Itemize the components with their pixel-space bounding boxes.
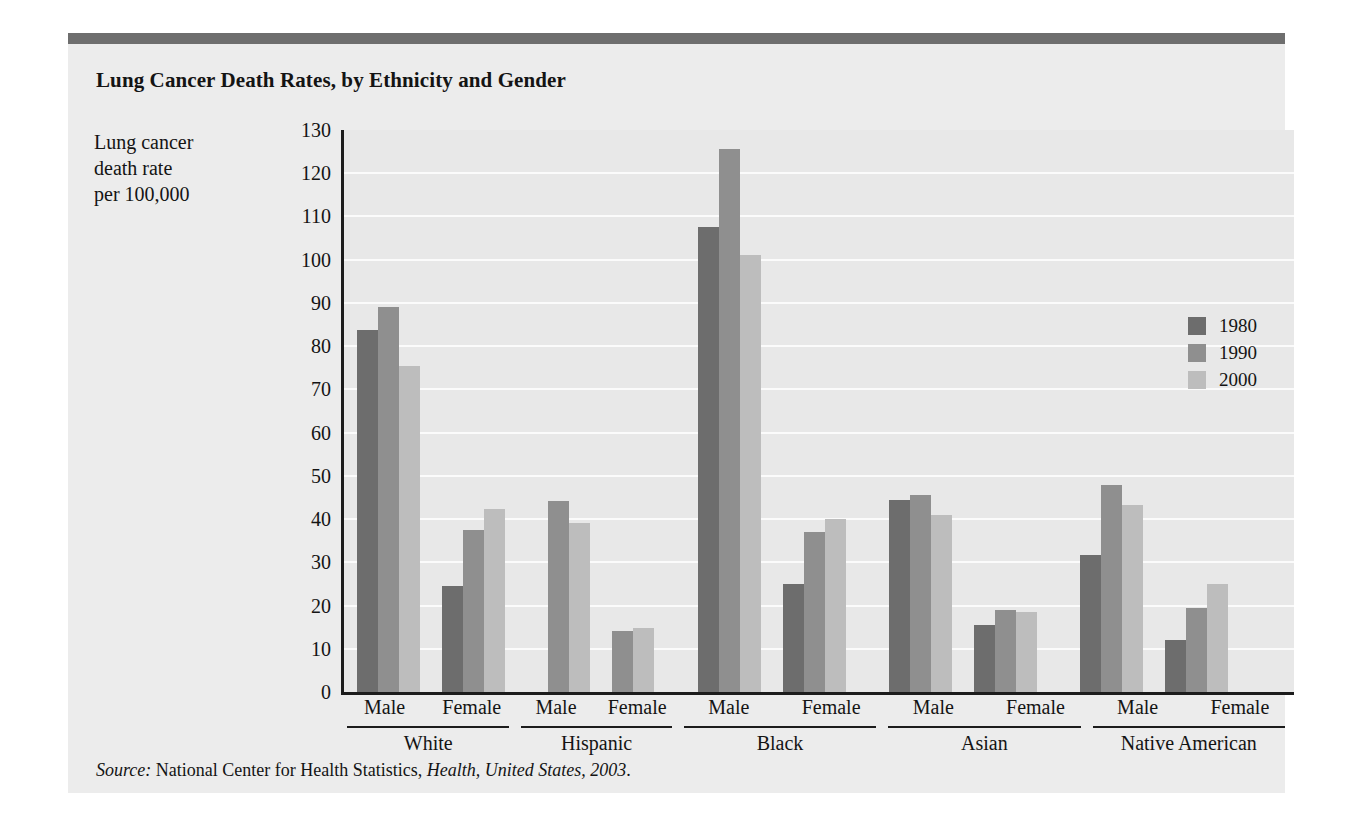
bar-2000 [1016,612,1037,692]
bar-1990 [378,307,399,692]
ethnicity-bar-group [548,130,654,692]
ethnicity-bar-group [889,130,1037,692]
x-axis-gender-row: MaleFemaleMaleFemaleMaleFemaleMaleFemale… [341,696,1291,730]
gender-bar-group [974,130,1037,692]
y-tick-label: 10 [311,637,331,660]
y-tick-label: 20 [311,594,331,617]
ethnicity-bar-group [698,130,846,692]
bar-2000 [399,366,420,692]
gender-bar-group [783,130,846,692]
bar-1980 [1080,555,1101,692]
source-suffix: . [626,760,631,780]
y-axis-tick-labels: 0102030405060708090100110120130 [273,130,337,692]
bar-1990 [995,610,1016,692]
x-gender-label: Male [341,696,428,730]
x-gender-group: MaleFemale [678,696,882,730]
legend-swatch-icon [1188,371,1206,389]
x-gender-label: Male [515,696,596,730]
ethnicity-bar-group [357,130,505,692]
bar-1990 [548,501,569,692]
bar-1990 [719,149,740,692]
x-gender-label: Female [597,696,678,730]
y-tick-label: 30 [311,551,331,574]
legend-swatch-icon [1188,317,1206,335]
gender-bar-group [1165,130,1228,692]
y-tick-label: 130 [301,119,331,142]
bar-2000 [569,523,590,692]
x-ethnicity-label: Asian [882,732,1086,764]
source-publication: Health, United States, 2003 [427,760,626,780]
y-axis-caption-line-3: per 100,000 [94,181,244,207]
x-gender-group: MaleFemale [341,696,515,730]
bar-2000 [825,519,846,692]
bar-1980 [442,586,463,692]
ethnicity-bar-group [1080,130,1228,692]
gender-bar-group [442,130,505,692]
legend-label: 1990 [1219,342,1257,364]
gender-bar-group [357,130,420,692]
gender-bar-group [612,130,654,692]
bar-1990 [612,631,633,692]
legend-item: 1990 [1188,339,1257,366]
x-gender-label: Male [1087,696,1189,730]
bar-1980 [357,330,378,692]
legend-item: 1980 [1188,312,1257,339]
x-gender-group: MaleFemale [882,696,1086,730]
gender-bar-group [1080,130,1143,692]
x-gender-label: Female [428,696,515,730]
y-axis-caption-line-1: Lung cancer [94,129,244,155]
bar-1980 [889,500,910,692]
bar-2000 [740,255,761,692]
x-gender-label: Male [678,696,780,730]
x-group-underline [347,726,509,728]
bar-1990 [1186,608,1207,692]
source-text: National Center for Health Statistics, [151,760,426,780]
chart-title: Lung Cancer Death Rates, by Ethnicity an… [96,68,566,93]
plot-area [341,130,1294,695]
x-gender-group: MaleFemale [1087,696,1291,730]
x-group-underline [1093,726,1285,728]
bar-2000 [1207,584,1228,692]
bar-1990 [463,530,484,692]
bar-2000 [484,509,505,692]
y-tick-label: 60 [311,421,331,444]
bar-1990 [804,532,825,692]
top-rule-divider [68,33,1285,44]
bar-2000 [633,628,654,692]
bar-1990 [1101,485,1122,692]
bar-2000 [1122,505,1143,692]
bar-2000 [931,515,952,692]
bar-1980 [698,227,719,692]
x-gender-label: Female [780,696,882,730]
y-axis-caption: Lung cancer death rate per 100,000 [94,129,244,207]
source-note: Source: National Center for Health Stati… [96,760,631,781]
legend-label: 1980 [1219,315,1257,337]
x-gender-label: Male [882,696,984,730]
legend-item: 2000 [1188,366,1257,393]
y-tick-label: 110 [302,205,331,228]
bar-series-container [344,130,1294,692]
y-tick-label: 120 [301,162,331,185]
y-tick-label: 0 [321,681,331,704]
panel-body: Lung Cancer Death Rates, by Ethnicity an… [68,44,1285,793]
legend-label: 2000 [1219,369,1257,391]
x-ethnicity-label: Native American [1087,732,1291,764]
gender-bar-group [548,130,590,692]
x-gender-group: MaleFemale [515,696,677,730]
y-axis-caption-line-2: death rate [94,155,244,181]
y-tick-label: 40 [311,508,331,531]
figure-panel: Lung Cancer Death Rates, by Ethnicity an… [68,33,1285,793]
gender-bar-group [698,130,761,692]
x-group-underline [684,726,876,728]
y-tick-label: 70 [311,378,331,401]
legend-swatch-icon [1188,344,1206,362]
bar-1980 [1165,640,1186,692]
x-group-underline [888,726,1080,728]
bar-1980 [974,625,995,692]
x-group-underline [521,726,671,728]
x-ethnicity-label: Black [678,732,882,764]
y-tick-label: 50 [311,464,331,487]
y-tick-label: 80 [311,335,331,358]
y-tick-label: 100 [301,248,331,271]
bar-1980 [783,584,804,692]
